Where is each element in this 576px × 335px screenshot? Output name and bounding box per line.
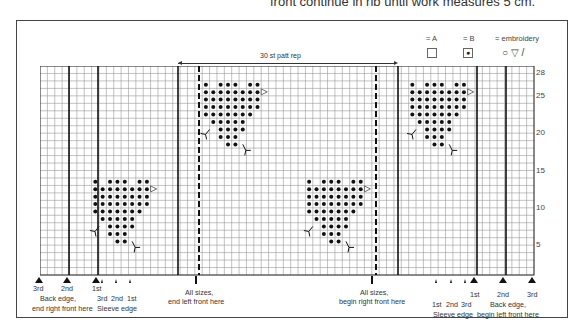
legend-embroidery-label: = embroidery <box>495 34 539 43</box>
row-number: 15 <box>536 166 545 175</box>
sleeve-size-label: 1st <box>432 300 442 309</box>
all-sizes-tick <box>371 276 373 284</box>
all-sizes-label: All sizes, <box>185 288 213 297</box>
legend-b-label: = B <box>463 34 474 43</box>
row-number: 28 <box>536 68 545 77</box>
sleeve-size-label: 3rd <box>461 300 471 309</box>
legend-b-box: ● <box>463 48 473 58</box>
size-label: 1st <box>92 284 102 293</box>
back-edge-label: begin left front here <box>477 310 539 319</box>
all-sizes-label: All sizes, <box>360 288 388 297</box>
size-label: 2nd <box>61 284 73 293</box>
size-label: 2nd <box>497 290 509 299</box>
size-marker <box>470 277 478 283</box>
size-label: 3rd <box>33 284 43 293</box>
sleeve-marker <box>129 279 131 283</box>
sleeve-size-label: 3rd <box>97 294 107 303</box>
size-marker <box>499 277 507 283</box>
sleeve-size-label: 1st <box>127 294 137 303</box>
back-edge-label: Back edge, <box>40 294 76 303</box>
knitting-grid <box>40 66 536 278</box>
instruction-text: front continue in rib until work measure… <box>270 0 535 9</box>
size-marker <box>63 277 71 283</box>
sleeve-marker <box>464 279 466 283</box>
size-marker <box>35 277 43 283</box>
row-number: 20 <box>536 128 545 137</box>
row-number: 5 <box>536 240 540 249</box>
embroidery-symbols: ○ ▽ / <box>502 47 524 58</box>
sleeve-marker <box>115 279 117 283</box>
back-edge-label: end right front here <box>32 304 93 313</box>
sleeve-edge-label: Sleeve edge <box>97 304 137 313</box>
all-sizes-tick <box>195 276 197 284</box>
sleeve-marker <box>450 279 452 283</box>
size-label: 3rd <box>527 290 537 299</box>
repeat-label: 30 st patt rep <box>260 52 301 59</box>
all-sizes-label: begin right front here <box>339 297 405 306</box>
repeat-arrow <box>178 63 396 64</box>
sleeve-marker <box>435 279 437 283</box>
size-marker <box>92 277 100 283</box>
sleeve-size-label: 2nd <box>111 294 123 303</box>
row-number: 10 <box>536 203 545 212</box>
back-edge-label: Back edge, <box>490 300 526 309</box>
sleeve-edge-label: Sleeve edge <box>433 310 473 319</box>
legend-a-box <box>427 48 437 58</box>
sleeve-marker <box>101 279 103 283</box>
size-label: 1st <box>470 290 480 299</box>
all-sizes-label: end left front here <box>168 297 224 306</box>
sleeve-size-label: 2nd <box>446 300 458 309</box>
size-marker <box>528 277 536 283</box>
row-number: 25 <box>536 91 545 100</box>
legend-a-label: = A <box>426 34 437 43</box>
